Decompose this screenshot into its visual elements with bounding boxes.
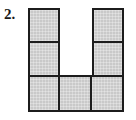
item-number-label: 2.: [4, 5, 24, 23]
square-r3c1: [28, 75, 60, 112]
square-r1c1: [28, 8, 60, 43]
square-r2c3: [92, 41, 124, 78]
square-r1c3: [92, 8, 124, 43]
square-r2c1: [28, 41, 60, 78]
square-r3c2: [58, 75, 92, 112]
polyomino-shape-grid: [28, 8, 124, 112]
gap-r1c2: [60, 8, 92, 43]
figure-container: 2.: [0, 0, 136, 120]
square-r3c3: [90, 75, 124, 112]
gap-r2c2: [60, 43, 92, 78]
